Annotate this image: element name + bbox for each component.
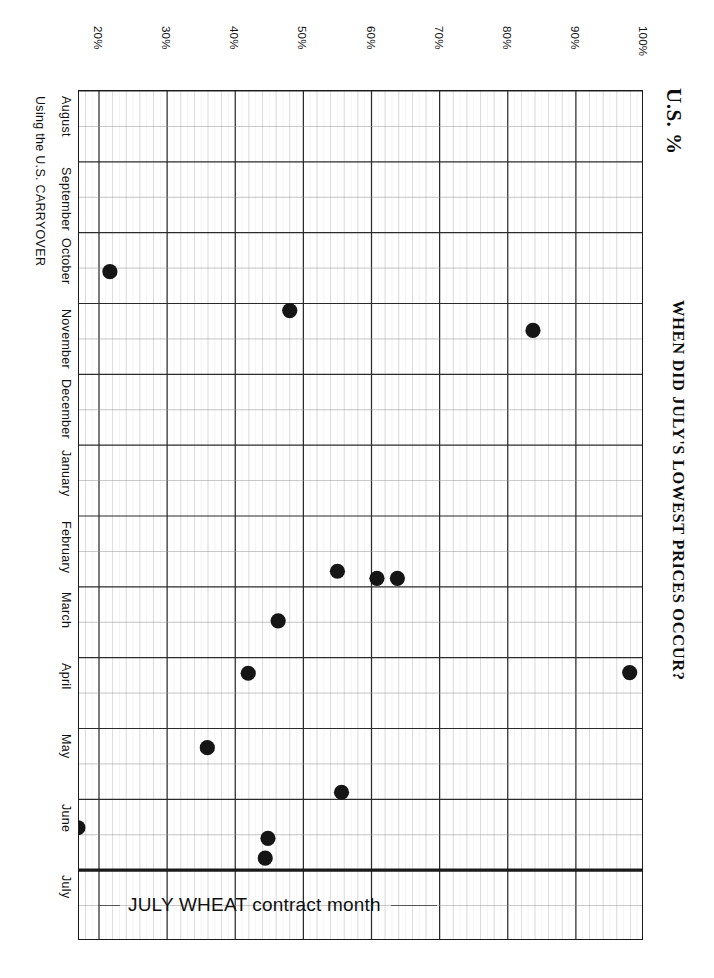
data-points-layer[interactable]: October, 21.6%November, 48%November, 83.… [79, 91, 642, 939]
month-label-august: August [60, 96, 73, 137]
data-point[interactable]: May, 55.6% [334, 785, 349, 800]
x-tick-label-100: 100% [637, 26, 649, 56]
data-point[interactable]: April, 97.9% [622, 665, 637, 680]
month-label-may: May [60, 734, 73, 759]
annotation-label: JULY WHEAT contract month [128, 894, 381, 916]
axis-unit-title: U.S. % [663, 88, 684, 155]
data-point[interactable]: May, 35.9% [200, 740, 215, 755]
data-point[interactable]: April, 41.9% [241, 666, 256, 681]
x-tick-label-80: 80% [500, 26, 512, 50]
data-point[interactable]: February, 60.8% [369, 571, 384, 586]
month-label-september: September [60, 167, 73, 231]
month-label-june: June [60, 804, 73, 832]
month-label-october: October [60, 238, 73, 285]
x-tick-label-40: 40% [228, 26, 240, 50]
annotation-leader-right [391, 905, 437, 906]
data-point[interactable]: February, 63.8% [390, 571, 405, 586]
month-label-november: November [60, 309, 73, 369]
x-tick-label-90: 90% [568, 26, 580, 50]
data-point[interactable]: March, 46.3% [271, 613, 286, 628]
month-label-december: December [60, 379, 73, 439]
x-tick-label-70: 70% [432, 26, 444, 50]
month-label-july: July [60, 875, 73, 898]
data-point[interactable]: June, 44.8% [260, 831, 275, 846]
data-point[interactable]: February, 55% [330, 564, 345, 579]
contract-month-annotation: JULY WHEAT contract month [78, 884, 643, 926]
plot-area[interactable]: October, 21.6%November, 48%November, 83.… [78, 90, 643, 940]
month-label-january: January [60, 450, 73, 497]
chart-subtitle: Using the U.S. CARRYOVER [34, 96, 47, 266]
month-label-april: April [60, 663, 73, 690]
x-tick-label-50: 50% [296, 26, 308, 50]
month-label-february: February [60, 521, 73, 573]
data-point[interactable]: October, 21.6% [102, 264, 117, 279]
chart-root: U.S. % WHEN DID JULY'S LOWEST PRICES OCC… [0, 0, 714, 978]
data-point[interactable]: June, 16.9% [79, 820, 85, 835]
data-point[interactable]: November, 48% [282, 303, 297, 318]
x-tick-label-30: 30% [160, 26, 172, 50]
x-tick-label-20: 20% [92, 26, 104, 50]
annotation-leader-left [98, 905, 120, 906]
month-label-march: March [60, 592, 73, 628]
data-point[interactable]: June, 44.4% [258, 851, 273, 866]
page-title: WHEN DID JULY'S LOWEST PRICES OCCUR? [670, 300, 687, 681]
data-point[interactable]: November, 83.7% [525, 323, 540, 338]
x-tick-label-60: 60% [364, 26, 376, 50]
